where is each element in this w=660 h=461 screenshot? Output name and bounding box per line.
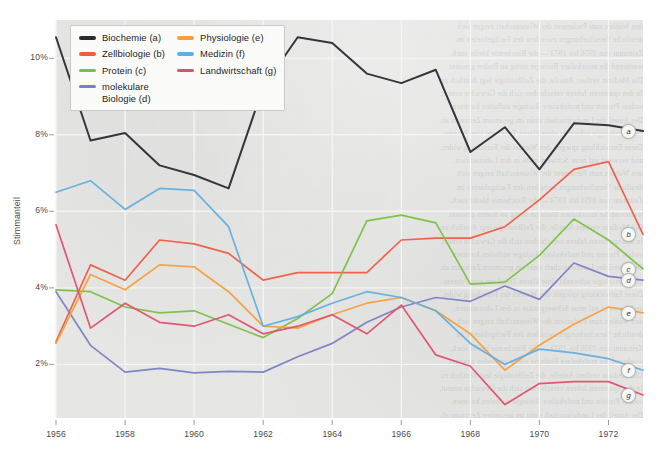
x-axis-tick-label: 1968 xyxy=(454,429,486,439)
x-axis-tick-label: 1972 xyxy=(592,429,624,439)
series-line-g xyxy=(56,225,643,405)
legend-column-1: Biochemie (a)Zellbiologie (b)Protein (c)… xyxy=(79,32,165,104)
series-end-label-a[interactable]: a xyxy=(621,124,636,139)
x-axis-tick-label: 1958 xyxy=(109,429,141,439)
x-axis-tick-label: 1962 xyxy=(247,429,279,439)
legend-color-swatch xyxy=(177,36,194,40)
y-axis-tick-label: 4% xyxy=(8,282,48,292)
legend-item-label: Physiologie (e) xyxy=(200,32,264,44)
legend-item[interactable]: Zellbiologie (b) xyxy=(79,48,165,60)
legend-item[interactable]: molekulare Biologie (d) xyxy=(79,81,165,105)
series-end-label-e[interactable]: e xyxy=(621,306,636,321)
legend-item[interactable]: Biochemie (a) xyxy=(79,32,165,44)
legend-item-label: Medizin (f) xyxy=(200,48,245,60)
chart-root: den Wahlen zum Parlament der Wissenschaf… xyxy=(0,0,660,461)
legend-color-swatch xyxy=(177,52,194,56)
legend-item-label: Biochemie (a) xyxy=(102,32,161,44)
chart-legend: Biochemie (a)Zellbiologie (b)Protein (c)… xyxy=(70,25,285,111)
legend-item-label: Landwirtschaft (g) xyxy=(200,65,276,77)
series-line-d xyxy=(56,263,643,373)
x-axis-tick-label: 1966 xyxy=(385,429,417,439)
series-line-e xyxy=(56,265,643,370)
legend-item[interactable]: Medizin (f) xyxy=(177,48,276,60)
x-axis-tick-label: 1956 xyxy=(40,429,72,439)
legend-item[interactable]: Physiologie (e) xyxy=(177,32,276,44)
legend-item[interactable]: Landwirtschaft (g) xyxy=(177,65,276,77)
legend-item-label: Protein (c) xyxy=(102,65,146,77)
legend-item-label: Zellbiologie (b) xyxy=(102,48,165,60)
legend-color-swatch xyxy=(79,85,96,89)
tick-marks xyxy=(49,58,609,425)
legend-item[interactable]: Protein (c) xyxy=(79,65,165,77)
legend-color-swatch xyxy=(79,69,96,73)
legend-color-swatch xyxy=(79,36,96,40)
y-axis-tick-label: 2% xyxy=(8,358,48,368)
y-axis-title: Stimmanteil xyxy=(12,197,22,245)
x-axis-tick-label: 1964 xyxy=(316,429,348,439)
legend-column-2: Physiologie (e)Medizin (f)Landwirtschaft… xyxy=(177,32,276,104)
legend-color-swatch xyxy=(177,69,194,73)
x-axis-tick-label: 1970 xyxy=(523,429,555,439)
legend-item-label: molekulare Biologie (d) xyxy=(102,81,151,105)
x-axis-tick-label: 1960 xyxy=(178,429,210,439)
legend-color-swatch xyxy=(79,52,96,56)
y-axis-tick-label: 8% xyxy=(8,129,48,139)
y-axis-tick-label: 10% xyxy=(8,52,48,62)
series-end-label-g[interactable]: g xyxy=(621,388,636,403)
